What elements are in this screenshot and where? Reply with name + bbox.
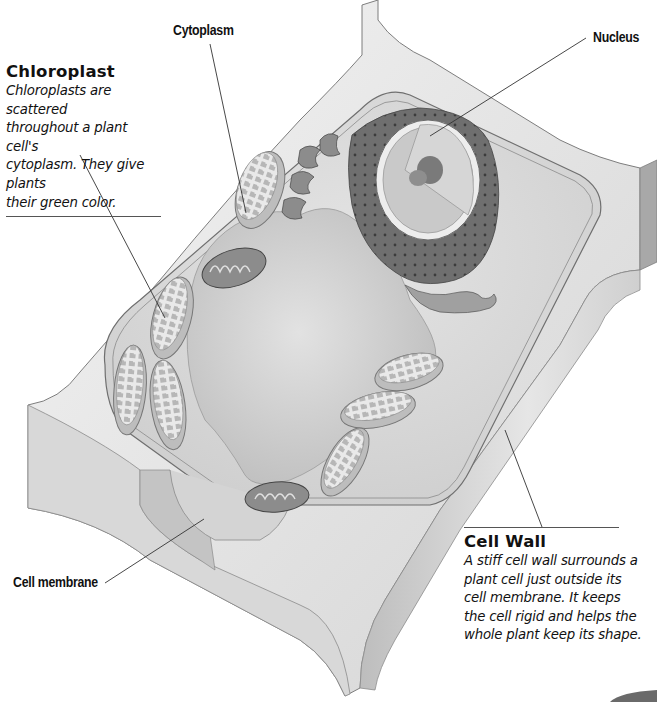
cytoplasm-leader	[210, 44, 246, 213]
label-cell-membrane: Cell membrane	[13, 574, 98, 590]
chloroplast-line-2: throughout a plant cell's	[6, 119, 161, 156]
chloroplast-callout: Chloroplast Chloroplasts are scattered t…	[6, 62, 161, 217]
cell-wall-line-2: plant cell just outside its	[464, 571, 649, 590]
cell-wall-line-1: A stiff cell wall surrounds a	[464, 552, 649, 571]
cell-wall-callout: Cell Wall A stiff cell wall surrounds a …	[464, 527, 649, 645]
cell-wall-rule	[464, 527, 619, 528]
chloroplast-line-3: cytoplasm. They give plants	[6, 156, 161, 193]
cell-wall-leader	[505, 430, 542, 527]
page-corner-shape	[610, 690, 657, 702]
cell-wall-title: Cell Wall	[464, 532, 649, 552]
cell-wall-line-4: the cell rigid and helps the	[464, 608, 649, 627]
cell-wall-line-5: whole plant keep its shape.	[464, 626, 649, 645]
chloroplast-rule	[6, 216, 161, 217]
chloroplast-line-1: Chloroplasts are scattered	[6, 82, 161, 119]
cell-wall-line-3: cell membrane. It keeps	[464, 589, 649, 608]
chloroplast-line-4: their green color.	[6, 194, 161, 213]
chloroplast-title: Chloroplast	[6, 62, 161, 82]
label-cytoplasm: Cytoplasm	[173, 22, 234, 38]
label-nucleus: Nucleus	[593, 29, 639, 45]
nucleus	[376, 120, 480, 240]
